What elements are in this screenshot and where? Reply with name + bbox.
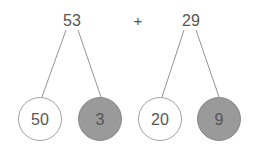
part-value: 50 [31,111,49,128]
left-whole-number: 53 [63,12,81,29]
branch-line-29-to-9 [196,30,219,97]
part-circle-3-shaded: 3 [79,98,122,141]
part-value: 20 [151,111,169,128]
right-whole-number: 29 [182,12,200,29]
number-bond-diagram: 53 + 29 50 3 20 9 [0,0,255,153]
plus-operator: + [134,12,143,29]
part-value: 9 [215,111,224,128]
branch-line-53-to-3 [78,30,101,97]
part-circle-20: 20 [139,98,182,141]
part-circle-9-shaded: 9 [198,98,241,141]
branch-line-53-to-50 [42,30,66,97]
part-value: 3 [96,111,105,128]
branch-line-29-to-20 [162,30,184,97]
part-circle-50: 50 [19,98,62,141]
